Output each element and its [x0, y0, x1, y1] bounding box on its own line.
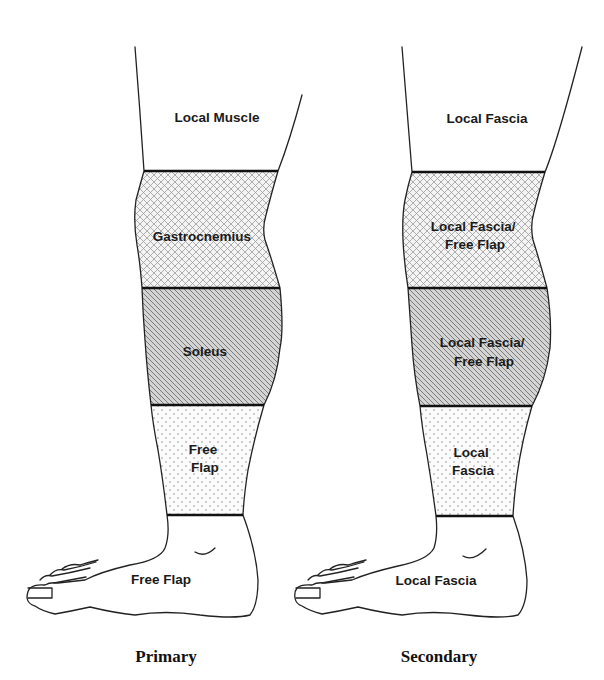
primary-caption: Primary: [135, 647, 197, 666]
secondary-leg: Local Fascia Local Fascia/ Free Flap Loc…: [295, 47, 582, 666]
secondary-label-foot: Local Fascia: [395, 573, 477, 588]
primary-ankle: [195, 548, 215, 554]
primary-label-soleus: Soleus: [183, 344, 227, 359]
primary-label-gastrocnemius: Gastrocnemius: [153, 229, 251, 244]
secondary-ankle: [463, 549, 486, 558]
secondary-zone-distal: [420, 406, 532, 516]
primary-leg: Local Muscle Gastrocnemius Soleus Free F…: [27, 47, 302, 666]
primary-label-knee: Local Muscle: [175, 110, 260, 125]
primary-label-foot: Free Flap: [131, 572, 191, 587]
secondary-label-knee: Local Fascia: [446, 111, 528, 126]
leg-reconstruction-diagram: Local Muscle Gastrocnemius Soleus Free F…: [0, 0, 604, 680]
secondary-caption: Secondary: [401, 647, 478, 666]
